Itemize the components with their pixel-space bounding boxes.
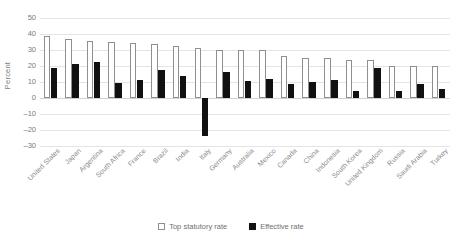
bar-effective[interactable] [288,84,295,98]
x-axis-tick-label: France [127,147,147,167]
bar-group [191,18,213,146]
bar-statutory[interactable] [151,44,158,98]
bar-effective[interactable] [309,82,316,98]
bar-statutory[interactable] [65,39,72,98]
bar-group [105,18,127,146]
bar-group [83,18,105,146]
bar-statutory[interactable] [324,58,331,98]
bars-layer [40,18,450,146]
y-axis-tick-label: –10 [23,110,36,118]
chart-legend: Top statutory rateEffective rate [0,222,462,231]
bar-statutory[interactable] [302,58,309,98]
legend-item[interactable]: Effective rate [249,222,304,231]
bar-group [364,18,386,146]
bar-group [407,18,429,146]
bar-effective[interactable] [223,72,230,98]
bar-statutory[interactable] [281,56,288,98]
bar-effective[interactable] [417,84,424,98]
bar-statutory[interactable] [173,46,180,98]
bar-statutory[interactable] [346,60,353,98]
x-axis-tick-label: Brazil [151,147,168,164]
bar-group [342,18,364,146]
y-axis-title-label: Percent [4,61,13,88]
bar-statutory[interactable] [410,66,417,98]
x-axis-tick-label: Japan [64,147,82,165]
x-axis-tick-label: China [302,147,320,165]
bar-effective[interactable] [331,80,338,98]
plot-area: 50403020100–10–20–30 [40,18,450,146]
x-axis-tick-label: Canada [276,147,298,169]
bar-effective[interactable] [374,68,381,98]
bar-group [62,18,84,146]
x-axis-tick-label: United States [26,147,61,182]
bar-statutory[interactable] [87,41,94,98]
legend-label: Top statutory rate [169,222,227,231]
bar-effective[interactable] [137,80,144,98]
bar-group [428,18,450,146]
bar-statutory[interactable] [259,50,266,98]
x-axis-tick-label: India [175,147,191,163]
legend-label: Effective rate [260,222,304,231]
bar-group [213,18,235,146]
bar-effective[interactable] [439,89,446,98]
bar-group [321,18,343,146]
bar-chart: Percent 50403020100–10–20–30 United Stat… [0,0,462,242]
bar-statutory[interactable] [195,48,202,98]
bar-effective[interactable] [115,83,122,98]
bar-statutory[interactable] [44,36,51,98]
bar-effective[interactable] [51,68,58,98]
bar-group [126,18,148,146]
bar-group [385,18,407,146]
x-axis-tick-label: Russia [386,147,406,167]
bar-group [40,18,62,146]
bar-group [299,18,321,146]
bar-statutory[interactable] [432,66,439,98]
bar-statutory[interactable] [238,50,245,98]
y-axis-tick-label: 20 [28,62,36,70]
bar-group [277,18,299,146]
legend-swatch-icon [158,223,165,230]
bar-statutory[interactable] [389,66,396,98]
y-axis-tick-label: 30 [28,46,36,54]
bar-statutory[interactable] [130,43,137,98]
y-axis-tick-label: 40 [28,30,36,38]
y-axis-tick-label: –30 [23,142,36,150]
bar-effective[interactable] [353,91,360,98]
bar-statutory[interactable] [108,42,115,98]
bar-effective[interactable] [180,76,187,98]
x-axis-tick-label: Mexico [256,147,277,168]
legend-item[interactable]: Top statutory rate [158,222,227,231]
bar-group [256,18,278,146]
bar-statutory[interactable] [367,60,374,98]
x-axis-tick-label: Italy [198,147,212,161]
bar-effective[interactable] [158,70,165,98]
bar-effective[interactable] [94,62,101,98]
bar-group [234,18,256,146]
x-axis-category-labels: United StatesJapanArgentinaSouth AfricaF… [40,147,450,209]
bar-effective[interactable] [72,64,79,98]
bar-group [169,18,191,146]
y-axis-tick-label: 0 [32,94,36,102]
bar-effective[interactable] [266,79,273,98]
y-axis-tick-label: 10 [28,78,36,86]
y-axis-tick-label: –20 [23,126,36,134]
legend-swatch-icon [249,223,256,230]
y-axis-tick-label: 50 [28,14,36,22]
bar-statutory[interactable] [216,50,223,98]
y-axis-title: Percent [0,0,16,150]
x-axis-tick-label: Turkey [429,147,449,167]
x-axis-tick-label: Australia [231,147,255,171]
bar-group [148,18,170,146]
bar-effective[interactable] [396,91,403,98]
bar-effective[interactable] [202,98,209,136]
bar-effective[interactable] [245,81,252,98]
